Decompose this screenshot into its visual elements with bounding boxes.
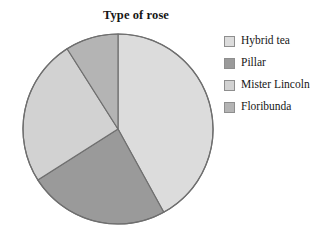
legend-swatch-icon [224,80,235,91]
legend-item-label: Pillar [241,57,266,69]
chart-title: Type of rose [36,8,236,23]
pie-chart-figure: Type of rose Hybrid tea Pillar Mister Li… [0,0,327,238]
legend-item-floribunda[interactable]: Floribunda [224,96,327,118]
pie-svg [20,31,216,227]
legend-item-mister-lincoln[interactable]: Mister Lincoln [224,74,327,96]
legend-swatch-icon [224,36,235,47]
legend-item-label: Floribunda [241,101,291,113]
legend-swatch-icon [224,102,235,113]
chart-legend: Hybrid tea Pillar Mister Lincoln Floribu… [224,30,327,118]
legend-item-hybrid-tea[interactable]: Hybrid tea [224,30,327,52]
legend-swatch-icon [224,58,235,69]
legend-item-pillar[interactable]: Pillar [224,52,327,74]
pie-slices [23,34,213,224]
legend-item-label: Mister Lincoln [241,79,310,91]
pie-plot-area [20,31,216,227]
legend-item-label: Hybrid tea [241,35,290,47]
